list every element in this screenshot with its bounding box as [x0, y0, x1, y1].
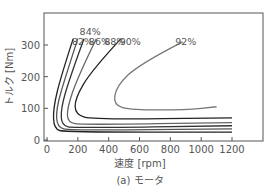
chart-caption: (a) モータ: [116, 175, 163, 186]
contour-label: 92%: [175, 36, 196, 47]
y-tick-label: 300: [21, 40, 40, 51]
contour-86pct: [61, 39, 232, 128]
contour-labels: 82%84%86%88%90%92%: [72, 26, 196, 47]
contour-92pct: [115, 42, 217, 110]
y-axis-label: トルク [Nm]: [4, 48, 15, 106]
x-tick-label: 600: [130, 144, 149, 155]
contour-label: 90%: [120, 36, 141, 47]
x-tick-label: 1000: [188, 144, 213, 155]
y-tick-label: 200: [21, 72, 40, 83]
x-tick-label: 200: [68, 144, 87, 155]
x-tick-label: 0: [44, 144, 50, 155]
contour-88pct: [67, 39, 232, 125]
x-axis-label: 速度 [rpm]: [114, 157, 165, 169]
x-tick-label: 1200: [219, 144, 244, 155]
y-tick-label: 100: [21, 103, 40, 114]
efficiency-contours: [54, 39, 232, 132]
y-tick-label: 0: [34, 135, 40, 146]
x-axis-ticks: 020040060080010001200: [44, 137, 245, 155]
plot-frame: [44, 13, 263, 141]
x-tick-label: 800: [161, 144, 180, 155]
efficiency-map-chart: 0100200300 020040060080010001200 82%84%8…: [0, 0, 267, 192]
contour-90pct: [75, 39, 232, 119]
x-tick-label: 400: [99, 144, 118, 155]
